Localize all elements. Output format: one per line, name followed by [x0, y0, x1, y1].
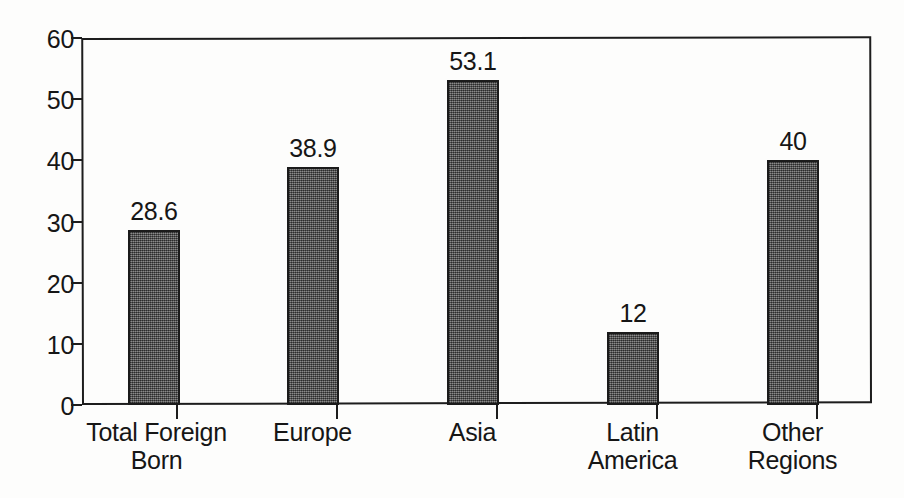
- bar-other-regions[interactable]: [767, 160, 819, 405]
- x-tick-mark: [816, 405, 818, 419]
- bar-group-europe[interactable]: 38.9: [287, 38, 339, 405]
- bar-value-label: 28.6: [130, 199, 177, 224]
- category-label-line: America: [550, 446, 715, 474]
- bar-group-latin-america[interactable]: 12: [607, 38, 659, 405]
- bar-group-total-foreign-born[interactable]: 28.6: [128, 38, 180, 405]
- category-label-line: Asia: [390, 418, 555, 446]
- category-label-line: Latin: [550, 418, 715, 446]
- bar-group-asia[interactable]: 53.1: [447, 38, 499, 405]
- y-tick-mark: [71, 343, 82, 345]
- bar-chart-figure: 60 50 40 30 20 10 0: [0, 0, 904, 498]
- category-label-other-regions: Other Regions: [710, 418, 875, 474]
- category-label-line: Regions: [710, 446, 875, 474]
- x-tick-mark: [336, 405, 338, 419]
- x-tick-mark: [496, 405, 498, 419]
- bar-value-label: 12: [619, 301, 646, 326]
- y-tick-mark: [71, 159, 82, 161]
- category-label-latin-america: Latin America: [550, 418, 715, 474]
- category-label-total-foreign-born: Total Foreign Born: [64, 418, 249, 474]
- bar-value-label: 53.1: [449, 49, 496, 74]
- bar-value-label: 38.9: [289, 136, 336, 161]
- category-label-asia: Asia: [390, 418, 555, 446]
- y-tick-mark: [71, 282, 82, 284]
- bar-latin-america[interactable]: [607, 332, 659, 405]
- bar-group-other-regions[interactable]: 40: [767, 38, 819, 405]
- y-tick-mark: [71, 98, 82, 100]
- y-tick-mark: [71, 221, 82, 223]
- category-label-line: Other: [710, 418, 875, 446]
- x-tick-mark: [176, 405, 178, 419]
- category-label-europe: Europe: [230, 418, 395, 446]
- category-label-line: Europe: [230, 418, 395, 446]
- bar-value-label: 40: [779, 129, 806, 154]
- bar-asia[interactable]: [447, 80, 499, 405]
- bar-total-foreign-born[interactable]: [128, 230, 180, 405]
- bars-layer: 28.6 38.9 53.1 12 40: [82, 38, 872, 405]
- category-labels: Total Foreign Born Europe Asia Latin Ame…: [82, 418, 872, 496]
- category-label-line: Total Foreign: [64, 418, 249, 446]
- x-tick-mark: [656, 405, 658, 419]
- bar-europe[interactable]: [287, 167, 339, 405]
- category-label-line: Born: [64, 446, 249, 474]
- y-tick-mark: [71, 404, 82, 406]
